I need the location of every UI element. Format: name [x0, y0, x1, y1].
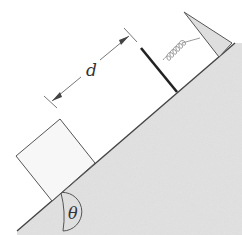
angle-label: θ	[68, 204, 78, 223]
dimension-tick-right	[124, 28, 137, 42]
stopper-wedge	[184, 12, 232, 57]
barrier-plate	[141, 48, 177, 92]
arrowhead-left-icon	[52, 92, 62, 101]
spring	[163, 38, 200, 60]
distance-label: d	[86, 60, 97, 80]
arrowhead-right-icon	[119, 36, 129, 45]
incline-diagram: d θ	[0, 0, 242, 235]
